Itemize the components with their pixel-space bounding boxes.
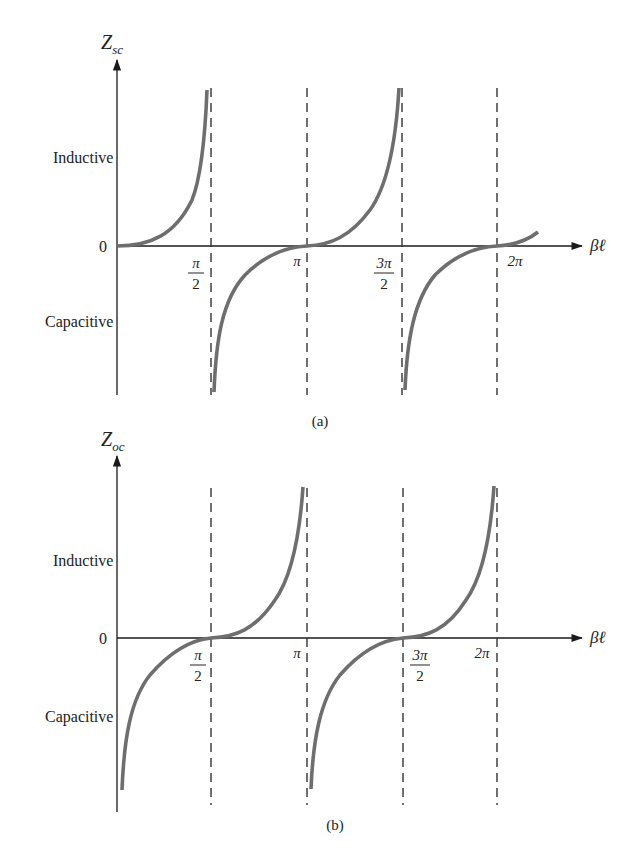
caption-a: (a) xyxy=(312,413,329,430)
svg-text:2: 2 xyxy=(192,276,200,292)
tick-label-pi-over-2-a: π 2 xyxy=(188,255,204,292)
origin-label-b: 0 xyxy=(99,630,107,647)
svg-text:2: 2 xyxy=(416,668,424,684)
tick-label-2pi-b: 2π xyxy=(474,645,490,661)
panel-a: Zsc βℓ Inductive Capacitive 0 π 2 π 3π 2… xyxy=(45,31,606,430)
tick-label-pi-over-2-b: π 2 xyxy=(190,647,206,684)
x-axis-label-b: βℓ xyxy=(589,628,606,647)
region-label-capacitive-b: Capacitive xyxy=(45,708,113,726)
origin-label-a: 0 xyxy=(99,238,107,255)
curve-a-segment-1 xyxy=(117,90,207,246)
svg-text:2: 2 xyxy=(380,276,388,292)
svg-text:2: 2 xyxy=(194,668,202,684)
svg-text:3π: 3π xyxy=(375,255,392,271)
caption-b: (b) xyxy=(326,817,344,834)
svg-text:3π: 3π xyxy=(411,647,428,663)
svg-text:π: π xyxy=(192,255,200,271)
region-label-capacitive-a: Capacitive xyxy=(45,313,113,331)
region-label-inductive-b: Inductive xyxy=(53,552,113,569)
tick-label-2pi-a: 2π xyxy=(507,253,523,269)
y-axis-label-a: Zsc xyxy=(101,31,123,57)
panel-b: Zoc βℓ Inductive Capacitive 0 π 2 π 3π 2… xyxy=(45,428,606,834)
y-axis-label-b: Zoc xyxy=(101,428,125,454)
tick-label-3pi-over-2-b: 3π 2 xyxy=(410,647,430,684)
tick-label-pi-a: π xyxy=(293,253,301,269)
figure-canvas: Zsc βℓ Inductive Capacitive 0 π 2 π 3π 2… xyxy=(0,0,643,853)
tick-label-pi-b: π xyxy=(293,645,301,661)
x-axis-label-a: βℓ xyxy=(589,236,606,255)
tick-label-3pi-over-2-a: 3π 2 xyxy=(374,255,394,292)
svg-text:π: π xyxy=(194,647,202,663)
region-label-inductive-a: Inductive xyxy=(53,149,113,166)
